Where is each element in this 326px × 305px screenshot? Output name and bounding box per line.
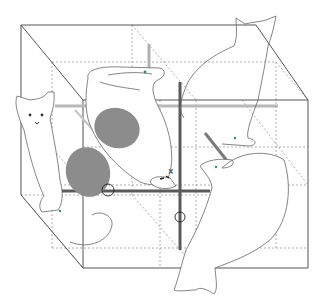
eye-dot [144,71,147,74]
rod-diagonal [205,133,228,162]
illustration-canvas: x [0,0,326,305]
paw-dot [59,210,61,212]
cat-curled-center: x [60,67,176,202]
cat-sitting-left [16,92,62,212]
cat-reaching-right [174,153,288,294]
eye-dot-right [215,166,217,168]
cats-in-box-diagram: x [0,0,326,305]
cat-tail [70,213,112,245]
cat-sitting-top-right [181,16,276,146]
svg-text:x: x [169,167,173,174]
paw-dot-right [234,137,236,139]
